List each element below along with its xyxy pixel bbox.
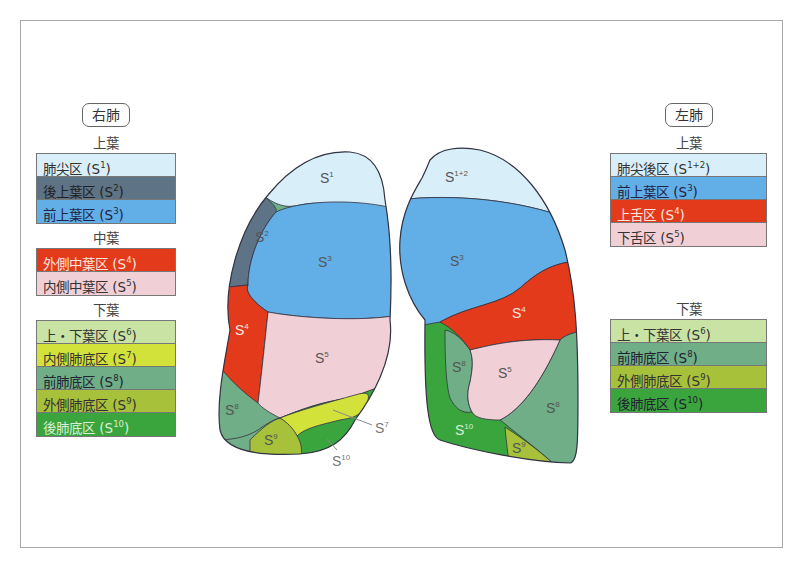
- left-lung: [395, 140, 585, 470]
- lung-segments-diagram: S1 S2 S3 S4 S5 S8 S9 S7 S10 S1+2 S3 S4 S…: [0, 0, 796, 562]
- label-r-s7: S7: [375, 420, 389, 436]
- label-r-s10: S10: [332, 453, 351, 469]
